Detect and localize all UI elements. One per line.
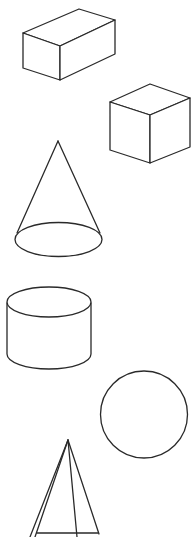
shapes-canvas (0, 0, 196, 537)
cube-shape (110, 84, 190, 163)
sphere-shape (101, 371, 188, 458)
pyramid-shape (30, 440, 99, 537)
cone-shape (15, 141, 102, 257)
cylinder-shape (7, 287, 91, 369)
rectangular-prism-shape (23, 9, 115, 80)
